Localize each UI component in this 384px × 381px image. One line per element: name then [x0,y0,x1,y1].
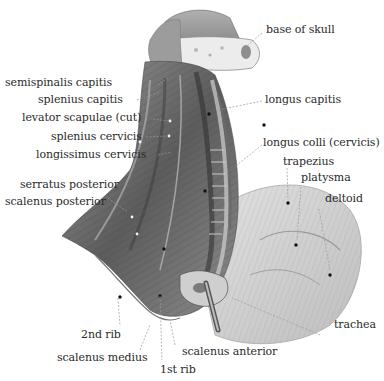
label-splenius-capitis: splenius capitis [38,94,123,106]
label-longus-capitis: longus capitis [265,94,341,106]
label-platysma: platysma [301,172,351,184]
label-longissimus-cervicis: longissimus cervicis [36,149,146,161]
label-2nd-rib: 2nd rib [81,329,121,341]
anatomy-figure: base of skull semispinalis capitis splen… [0,0,384,381]
label-longus-colli-cervicis: longus colli (cervicis) [263,137,380,149]
label-trapezius: trapezius [283,156,334,168]
label-scalenus-medius: scalenus medius [57,352,147,364]
label-semispinalis-capitis: semispinalis capitis [5,77,112,89]
label-scalenus-anterior: scalenus anterior [182,346,277,358]
label-splenius-cervicis: splenius cervicis [51,131,142,143]
label-scalenus-posterior: scalenus posterior [5,196,106,208]
label-1st-rib: 1st rib [160,364,196,376]
label-levator-scapulae-cut: levator scapulae (cut) [22,112,141,124]
label-deltoid: deltoid [325,193,363,205]
label-base-of-skull: base of skull [266,24,335,36]
label-trachea: trachea [334,319,376,331]
label-serratus-posterior: serratus posterior [20,179,119,191]
